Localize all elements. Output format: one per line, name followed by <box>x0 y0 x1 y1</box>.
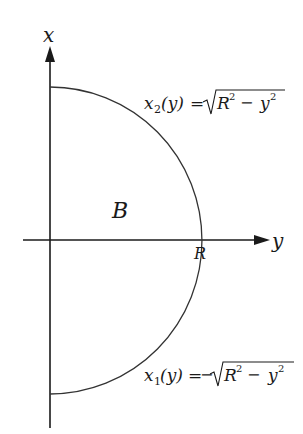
radius-label: R <box>193 244 206 263</box>
upper-eq-R-exp: 2 <box>229 91 235 102</box>
x-axis-arrow-icon <box>45 46 55 62</box>
lower-eq-R: R <box>223 365 237 385</box>
lower-curve-equation: x 1 (y) = − R 2 − y 2 <box>144 362 294 388</box>
y-axis-label: y <box>271 229 284 253</box>
upper-eq-R: R <box>216 93 230 113</box>
upper-eq-sub: 2 <box>154 103 161 116</box>
lower-eq-y-exp: 2 <box>278 363 284 374</box>
diagram-canvas: x y B R x 2 (y) = R 2 − y 2 x 1 (y) <box>0 0 303 434</box>
upper-eq-y: y <box>259 93 270 113</box>
lower-eq-arg: (y) <box>160 365 183 385</box>
lower-eq-R-exp: 2 <box>236 363 242 374</box>
upper-eq-equals: = <box>190 93 204 113</box>
x-axis-label: x <box>43 23 54 47</box>
lower-eq-sign: − <box>200 365 213 384</box>
region-label: B <box>111 198 128 223</box>
y-axis-arrow-icon <box>254 235 270 245</box>
lower-eq-var: x <box>144 365 154 385</box>
upper-eq-arg: (y) <box>161 93 184 113</box>
lower-eq-minus: − <box>247 365 260 384</box>
upper-curve-equation: x 2 (y) = R 2 − y 2 <box>144 90 285 116</box>
semicircle-diagram: x y B R x 2 (y) = R 2 − y 2 x 1 (y) <box>0 0 303 434</box>
upper-eq-y-exp: 2 <box>270 91 276 102</box>
upper-eq-var: x <box>144 93 154 113</box>
upper-eq-minus: − <box>240 93 253 112</box>
lower-eq-y: y <box>267 365 278 385</box>
